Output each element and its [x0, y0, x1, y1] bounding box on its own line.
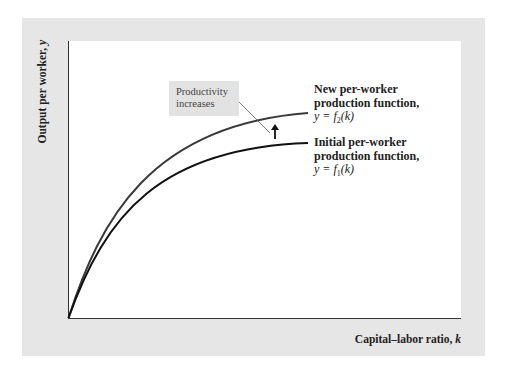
new-curve-label: New per-worker production function, y = …: [314, 83, 419, 128]
new-eq-prefix: y = f: [314, 109, 337, 123]
chart-svg: [0, 0, 506, 368]
productivity-annotation: Productivity increases: [169, 81, 239, 116]
up-arrow-icon: [271, 124, 279, 139]
initial-curve-label: Initial per-worker production function, …: [314, 136, 419, 181]
initial-eq-suffix: (k): [341, 162, 354, 176]
new-production-curve: [69, 113, 309, 318]
annotation-line-1: Productivity: [176, 86, 239, 98]
y-axis-label-var: y: [36, 40, 48, 45]
x-axis-label: Capital–labor ratio, k: [355, 333, 461, 345]
initial-curve-label-line-1: Initial per-worker: [314, 136, 419, 150]
x-axis-label-var: k: [455, 333, 461, 345]
annotation-line-2: increases: [176, 98, 239, 110]
new-curve-equation: y = f2(k): [314, 110, 419, 128]
new-curve-label-line-2: production function,: [314, 97, 419, 111]
new-eq-suffix: (k): [341, 109, 354, 123]
annotation-leader-line: [239, 102, 270, 133]
x-axis-label-text: Capital–labor ratio,: [355, 333, 455, 345]
initial-curve-label-line-2: production function,: [314, 150, 419, 164]
y-axis-label-wrap: Output per worker, y: [36, 40, 52, 150]
initial-eq-prefix: y = f: [314, 162, 337, 176]
y-axis-label: Output per worker, y: [36, 40, 48, 144]
new-curve-label-line-1: New per-worker: [314, 83, 419, 97]
y-axis-label-text: Output per worker,: [36, 45, 48, 143]
initial-curve-equation: y = f1(k): [314, 163, 419, 181]
